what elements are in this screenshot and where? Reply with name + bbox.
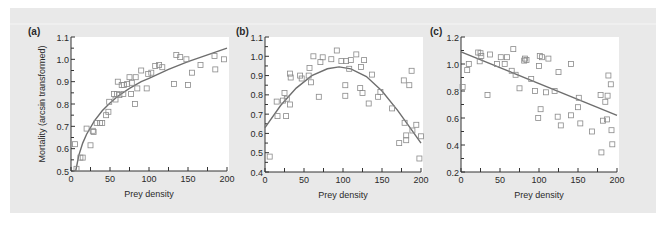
y-tick-label: 0.4 <box>250 168 263 178</box>
y-tick-label: 0.7 <box>56 122 69 132</box>
y-tick-label: 0.5 <box>250 148 263 158</box>
x-tick-label: 0 <box>458 175 463 185</box>
x-tick-label: 100 <box>141 174 156 184</box>
y-tick-label: 0.2 <box>446 168 459 178</box>
x-tick-label: 200 <box>219 174 234 184</box>
y-tick-label: 1.0 <box>56 55 69 65</box>
x-tick-label: 0 <box>68 174 73 184</box>
y-tick-label: 0.5 <box>56 167 69 177</box>
x-tick-label: 50 <box>495 175 505 185</box>
panel-label: (b) <box>236 26 249 37</box>
y-tick-label: 0.8 <box>56 100 69 110</box>
plot-area <box>71 37 229 171</box>
x-tick-label: 0 <box>262 175 267 185</box>
x-tick-label: 200 <box>413 175 428 185</box>
y-tick-label: 1.2 <box>446 33 459 43</box>
x-axis-label: Prey density <box>514 190 564 200</box>
y-tick-label: 1.1 <box>56 33 69 43</box>
x-tick-label: 200 <box>609 175 624 185</box>
y-tick-label: 0.8 <box>446 87 459 97</box>
y-tick-label: 0.6 <box>250 129 263 139</box>
y-tick-label: 0.8 <box>250 90 263 100</box>
x-tick-label: 50 <box>299 175 309 185</box>
x-tick-label: 150 <box>374 175 389 185</box>
x-tick-label: 100 <box>335 175 350 185</box>
x-tick-label: 150 <box>570 175 585 185</box>
plot-area <box>461 37 619 172</box>
plot-area <box>265 37 423 172</box>
x-tick-label: 100 <box>531 175 546 185</box>
y-tick-label: 0.6 <box>56 144 69 154</box>
y-tick-label: 0.7 <box>250 110 263 120</box>
y-tick-label: 0.9 <box>250 71 263 81</box>
y-tick-label: 1.0 <box>446 60 459 70</box>
y-tick-label: 1.1 <box>250 33 263 43</box>
x-axis-label: Prey density <box>318 190 368 200</box>
y-tick-label: 0.4 <box>446 141 459 151</box>
panel-label: (c) <box>430 26 442 37</box>
y-axis-label: Mortality (arcsin transformed) <box>37 45 47 162</box>
figure-svg: (a)0.50.60.70.80.91.01.1050100150200Prey… <box>0 0 666 225</box>
y-tick-label: 0.6 <box>446 114 459 124</box>
y-tick-label: 0.9 <box>56 77 69 87</box>
panel-label: (a) <box>28 26 40 37</box>
x-tick-label: 150 <box>180 174 195 184</box>
figure-container: (a)0.50.60.70.80.91.01.1050100150200Prey… <box>0 0 666 225</box>
x-axis-label: Prey density <box>124 189 174 199</box>
x-tick-label: 50 <box>105 174 115 184</box>
y-tick-label: 1.0 <box>250 52 263 62</box>
